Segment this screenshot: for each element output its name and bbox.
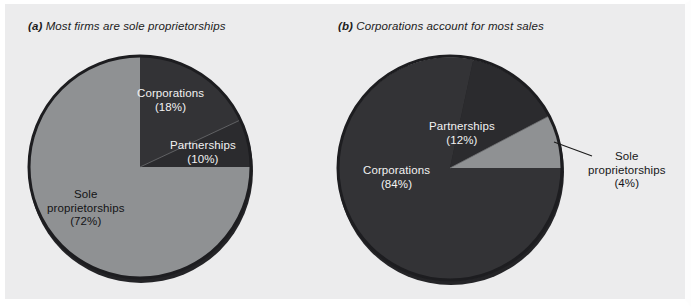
panel-b: (b) Corporations account for most sales …: [345, 0, 691, 307]
pie-b-label-corporations-value: (84%): [363, 178, 430, 192]
pie-a-label-corporations: Corporations (18%): [137, 87, 204, 114]
panel-a: (a) Most firms are sole proprietorships …: [0, 0, 345, 307]
pie-a-label-sole-name-1: Sole: [47, 188, 125, 202]
pie-b-label-corporations: Corporations (84%): [363, 164, 430, 191]
pie-a-label-sole-value: (72%): [47, 215, 125, 229]
pie-a-label-partnerships: Partnerships (10%): [170, 139, 236, 166]
pie-a-label-corporations-value: (18%): [137, 101, 204, 115]
pie-a-label-sole-name-2: proprietorships: [47, 202, 125, 216]
pie-a-label-partnerships-value: (10%): [170, 153, 236, 167]
pie-a-label-corporations-name: Corporations: [137, 87, 204, 101]
pie-b-callout-sole-name-2: proprietorships: [588, 164, 666, 178]
pie-b-label-partnerships-value: (12%): [429, 134, 495, 148]
pie-b-callout-sole-value: (4%): [588, 177, 666, 191]
pie-a-label-sole-proprietorships: Sole proprietorships (72%): [47, 188, 125, 229]
pie-b-label-partnerships: Partnerships (12%): [429, 120, 495, 147]
pie-b-label-corporations-name: Corporations: [363, 164, 430, 178]
pie-b-callout-sole-proprietorships: Sole proprietorships (4%): [588, 150, 666, 191]
pie-b-label-partnerships-name: Partnerships: [429, 120, 495, 134]
pie-b-callout-sole-name-1: Sole: [588, 150, 666, 164]
pie-a-label-partnerships-name: Partnerships: [170, 139, 236, 153]
figure-container: (a) Most firms are sole proprietorships …: [0, 0, 691, 307]
